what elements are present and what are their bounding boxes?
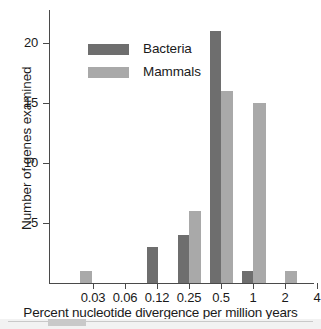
legend-item-mammals: Mammals	[88, 63, 201, 81]
bar-bacteria-1-2	[242, 271, 253, 283]
x-tick-mark	[285, 283, 286, 289]
x-tick-mark	[317, 283, 318, 289]
chart-legend: Bacteria Mammals	[88, 40, 201, 86]
x-tick-label: 4	[313, 291, 320, 305]
bar-mammals-0.25-0.5	[189, 211, 201, 283]
x-tick-label: 1	[249, 291, 256, 305]
x-tick-mark	[253, 283, 254, 289]
scan-artifact-block	[48, 319, 86, 326]
x-tick-mark	[221, 283, 222, 289]
x-tick-label: 0.5	[212, 291, 229, 305]
x-tick-label: 0.06	[113, 291, 138, 305]
x-tick-label: 0.12	[145, 291, 170, 305]
bar-bacteria-0.5-1	[210, 31, 221, 283]
x-axis-title: Percent nucleotide divergence per millio…	[0, 305, 321, 320]
x-tick-label: 2	[281, 291, 288, 305]
plot-area: 5101520 0.030.060.120.250.5124 Bacteria …	[0, 0, 321, 290]
legend-label-bacteria: Bacteria	[143, 42, 192, 56]
legend-swatch-bacteria	[88, 44, 129, 55]
bar-mammals-2-4	[285, 271, 297, 283]
legend-label-mammals: Mammals	[143, 65, 201, 79]
x-tick-mark	[93, 283, 94, 289]
legend-item-bacteria: Bacteria	[88, 40, 201, 58]
x-tick-mark	[125, 283, 126, 289]
chart-figure: 5101520 0.030.060.120.250.5124 Bacteria …	[0, 0, 321, 329]
legend-swatch-mammals	[88, 67, 129, 78]
bar-bacteria-0.25-0.5	[178, 235, 189, 283]
x-tick-label: 0.03	[81, 291, 106, 305]
bar-mammals-0.5-1	[221, 91, 233, 283]
bar-bacteria-0.12-0.25	[147, 247, 158, 283]
x-tick-mark	[189, 283, 190, 289]
x-tick-mark	[157, 283, 158, 289]
bar-mammals-0.03-0.06	[80, 271, 92, 283]
y-axis-title: Number of genes examined	[20, 67, 34, 230]
bar-mammals-1-2	[253, 103, 266, 283]
x-tick-label: 0.25	[177, 291, 202, 305]
